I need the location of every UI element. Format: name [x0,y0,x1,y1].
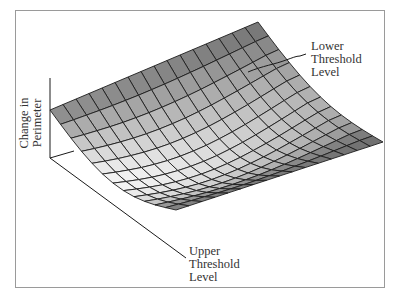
back-axis-line [50,151,74,158]
upper-threshold-line-3: Level [189,271,240,284]
lower-threshold-label: Lower Threshold Level [311,40,362,79]
z-axis-label-line-2: Perimeter [31,78,44,168]
upper-threshold-label: Upper Threshold Level [189,245,240,284]
z-axis-label: Change in Perimeter [18,78,44,168]
lower-threshold-line-3: Level [311,66,362,79]
